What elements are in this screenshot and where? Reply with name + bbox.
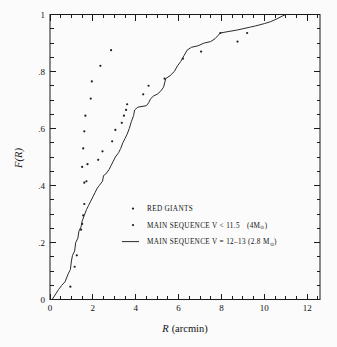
series-points-red-giants — [69, 49, 112, 288]
y-tick-label: 1 — [41, 10, 46, 20]
cumulative-distribution-chart: 024681012 0.2.4.6.81 R(arcmin) F(R) RED … — [0, 0, 337, 347]
data-point — [200, 50, 202, 52]
data-point — [74, 266, 76, 268]
legend-label: MAIN SEQUENCE V < 11.5(4M⊙) — [147, 222, 268, 231]
data-point — [142, 93, 144, 95]
x-tick-label: 10 — [260, 303, 270, 313]
chart-legend: RED GIANTSMAIN SEQUENCE V < 11.5(4M⊙)MAI… — [122, 205, 277, 247]
data-point — [123, 115, 125, 117]
y-tick-label: 0 — [41, 295, 46, 305]
x-tick-label: 12 — [303, 303, 312, 313]
data-point — [83, 130, 85, 132]
data-point — [90, 97, 92, 99]
data-point — [110, 49, 112, 51]
x-tick-label: 2 — [91, 303, 96, 313]
legend-marker-dot — [132, 208, 134, 210]
x-tick-label: 4 — [133, 303, 138, 313]
x-axis-title: R(arcmin) — [161, 323, 208, 335]
series-points-main-sequence-v-11-5-4m — [86, 32, 248, 165]
data-point — [125, 109, 127, 111]
data-point — [69, 286, 71, 288]
data-point — [91, 80, 93, 82]
data-point — [121, 122, 123, 124]
data-point — [236, 40, 238, 42]
data-series-layer — [52, 15, 286, 300]
plot-frame — [50, 15, 320, 300]
data-point — [126, 103, 128, 105]
data-point — [99, 65, 101, 67]
data-point — [83, 203, 85, 205]
series-line-main-sequence-v-12-13-2-8-m — [52, 15, 286, 300]
y-tick-label: .6 — [38, 124, 45, 134]
y-axis-title: F(R) — [13, 148, 25, 169]
data-point — [81, 166, 83, 168]
data-point — [147, 85, 149, 87]
axis-ticks-group — [50, 15, 320, 300]
y-tick-label: .8 — [38, 67, 45, 77]
data-point — [114, 129, 116, 131]
data-point — [101, 150, 103, 152]
data-point — [82, 147, 84, 149]
legend-label: MAIN SEQUENCE V = 12–13 (2.8 M⊙) — [147, 238, 277, 247]
data-point — [111, 140, 113, 142]
x-tick-labels: 024681012 — [48, 303, 312, 313]
data-point — [83, 182, 85, 184]
y-tick-label: .4 — [38, 181, 45, 191]
x-tick-label: 8 — [219, 303, 224, 313]
y-tick-label: .2 — [38, 238, 45, 248]
legend-marker-dot — [132, 224, 134, 226]
legend-label: RED GIANTS — [147, 205, 193, 213]
x-tick-label: 6 — [176, 303, 181, 313]
data-point — [76, 254, 78, 256]
figure-container: 024681012 0.2.4.6.81 R(arcmin) F(R) RED … — [0, 0, 337, 347]
y-tick-labels: 0.2.4.6.81 — [38, 10, 45, 305]
data-point — [84, 115, 86, 117]
data-point — [246, 32, 248, 34]
x-tick-label: 0 — [48, 303, 53, 313]
data-point — [97, 159, 99, 161]
data-point — [86, 163, 88, 165]
data-point — [85, 180, 87, 182]
